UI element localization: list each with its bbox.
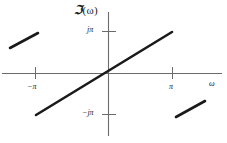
y-tick-label-pos-jpi: jπ [87,26,93,34]
x-tick-label-neg-pi: −π [27,83,36,91]
y-tick-label-neg-jpi: −jπ [82,109,94,117]
x-axis-label-omega: ω [209,80,215,88]
curve-right-replica [176,101,205,117]
plot-canvas [0,0,227,143]
x-tick-label-pos-pi: π [169,83,173,91]
title-argument: (ω) [82,4,98,16]
phase-plot-figure: ℑ(ω) jπ −jπ −π π ω [0,0,227,143]
plot-title: ℑ(ω) [74,4,98,16]
curve-left-replica [10,33,38,48]
